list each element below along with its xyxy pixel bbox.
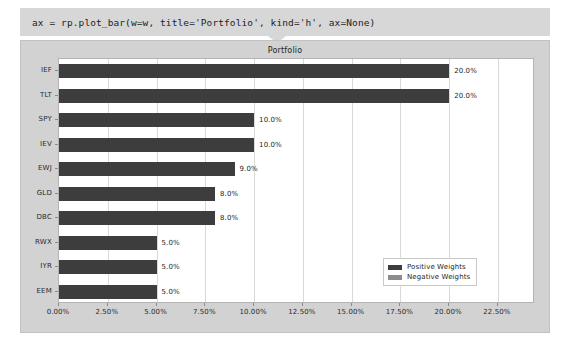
y-axis-tick-mark [55, 70, 58, 71]
x-axis-tick-mark [448, 303, 449, 306]
y-axis-tick-label: DBC [21, 213, 52, 221]
x-axis-tick-label: 7.50% [193, 308, 216, 316]
y-axis-tick-mark [55, 144, 58, 145]
x-axis-tick-label: 20.00% [435, 308, 462, 316]
x-axis-tick-mark [497, 303, 498, 306]
bar [59, 89, 449, 103]
bar-value-label: 10.0% [259, 116, 282, 124]
y-axis-tick-label: RWX [21, 238, 52, 246]
y-axis-tick-label: TLT [21, 91, 52, 99]
x-axis-tick-mark [253, 303, 254, 306]
bar [59, 211, 215, 225]
x-axis-tick-mark [302, 303, 303, 306]
x-axis-tick-mark [58, 303, 59, 306]
x-axis-tick-mark [156, 303, 157, 306]
x-axis-tick-label: 17.50% [386, 308, 413, 316]
y-axis-tick-label: IEV [21, 140, 52, 148]
notebook-code-cell[interactable]: ax = rp.plot_bar(w=w, title='Portfolio',… [20, 8, 550, 36]
x-axis-tick-label: 10.00% [239, 308, 266, 316]
screenshot-root: ax = rp.plot_bar(w=w, title='Portfolio',… [0, 0, 577, 342]
code-cell-source[interactable]: ax = rp.plot_bar(w=w, title='Portfolio',… [20, 17, 375, 28]
x-axis-tick-mark [399, 303, 400, 306]
bar-value-label: 5.0% [162, 263, 180, 271]
legend-swatch-negative [388, 275, 402, 280]
y-axis-tick-label: SPY [21, 115, 52, 123]
bar-value-label: 10.0% [259, 141, 282, 149]
x-axis-tick-label: 15.00% [337, 308, 364, 316]
legend-entry-negative-weights: Negative Weights [388, 272, 470, 282]
y-axis-tick-mark [55, 291, 58, 292]
y-axis-tick-mark [55, 217, 58, 218]
x-axis-tick-mark [351, 303, 352, 306]
bar-value-label: 8.0% [220, 190, 238, 198]
bar-value-label: 20.0% [454, 92, 477, 100]
chart-title: Portfolio [21, 46, 549, 55]
bar [59, 113, 254, 127]
bar-value-label: 5.0% [162, 239, 180, 247]
bar-value-label: 8.0% [220, 214, 238, 222]
y-axis-tick-mark [55, 266, 58, 267]
x-axis-tick-label: 12.50% [288, 308, 315, 316]
y-axis-tick-label: GLD [21, 189, 52, 197]
y-axis-tick-mark [55, 168, 58, 169]
bar-value-label: 9.0% [240, 165, 258, 173]
y-axis-tick-mark [55, 95, 58, 96]
y-axis-tick-label: IEF [21, 66, 52, 74]
bar-value-label: 20.0% [454, 67, 477, 75]
gridline [498, 59, 499, 302]
x-axis-tick-label: 2.50% [95, 308, 118, 316]
legend-entry-positive-weights: Positive Weights [388, 262, 470, 272]
y-axis-tick-label: EWJ [21, 164, 52, 172]
legend-swatch-positive [388, 265, 402, 270]
x-axis-tick-label: 22.50% [483, 308, 510, 316]
legend-label-positive: Positive Weights [407, 263, 466, 271]
bar [59, 285, 157, 299]
y-axis-tick-label: EEM [21, 287, 52, 295]
chart-legend: Positive Weights Negative Weights [383, 258, 477, 286]
y-axis-tick-label: IYR [21, 262, 52, 270]
x-axis-tick-mark [107, 303, 108, 306]
bar [59, 64, 449, 78]
bar [59, 187, 215, 201]
bar-value-label: 5.0% [162, 288, 180, 296]
bar [59, 236, 157, 250]
bar [59, 138, 254, 152]
bar [59, 162, 235, 176]
x-axis-tick-mark [204, 303, 205, 306]
legend-label-negative: Negative Weights [407, 273, 470, 281]
x-axis-tick-label: 5.00% [144, 308, 167, 316]
bar [59, 260, 157, 274]
y-axis-tick-mark [55, 242, 58, 243]
x-axis-tick-label: 0.00% [47, 308, 70, 316]
matplotlib-figure: Portfolio 5.0%5.0%5.0%8.0%8.0%9.0%10.0%1… [20, 40, 550, 333]
y-axis-tick-mark [55, 119, 58, 120]
y-axis-tick-mark [55, 193, 58, 194]
